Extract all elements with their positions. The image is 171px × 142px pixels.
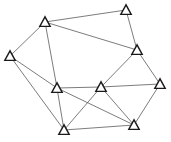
triangle-node-icon-n4 bbox=[132, 45, 142, 55]
edge-n7-n9 bbox=[134, 84, 160, 125]
edge-n2-n4 bbox=[126, 10, 137, 50]
triangle-node-icon-n2 bbox=[121, 5, 131, 15]
edge-n1-n5 bbox=[45, 22, 57, 88]
triangle-node-icon-n7 bbox=[155, 79, 165, 89]
edge-n1-n2 bbox=[45, 10, 126, 22]
edge-n6-n7 bbox=[101, 84, 160, 87]
edge-n1-n4 bbox=[45, 22, 137, 50]
edge-n6-n8 bbox=[64, 87, 101, 130]
network-graph bbox=[0, 0, 171, 142]
edge-n6-n9 bbox=[101, 87, 134, 125]
edge-n8-n9 bbox=[64, 125, 134, 130]
graph-nodes bbox=[5, 5, 165, 135]
edge-n5-n6 bbox=[57, 87, 101, 88]
edge-n3-n5 bbox=[10, 56, 57, 88]
graph-edges bbox=[10, 10, 160, 130]
edge-n5-n8 bbox=[57, 88, 64, 130]
edge-n4-n6 bbox=[101, 50, 137, 87]
